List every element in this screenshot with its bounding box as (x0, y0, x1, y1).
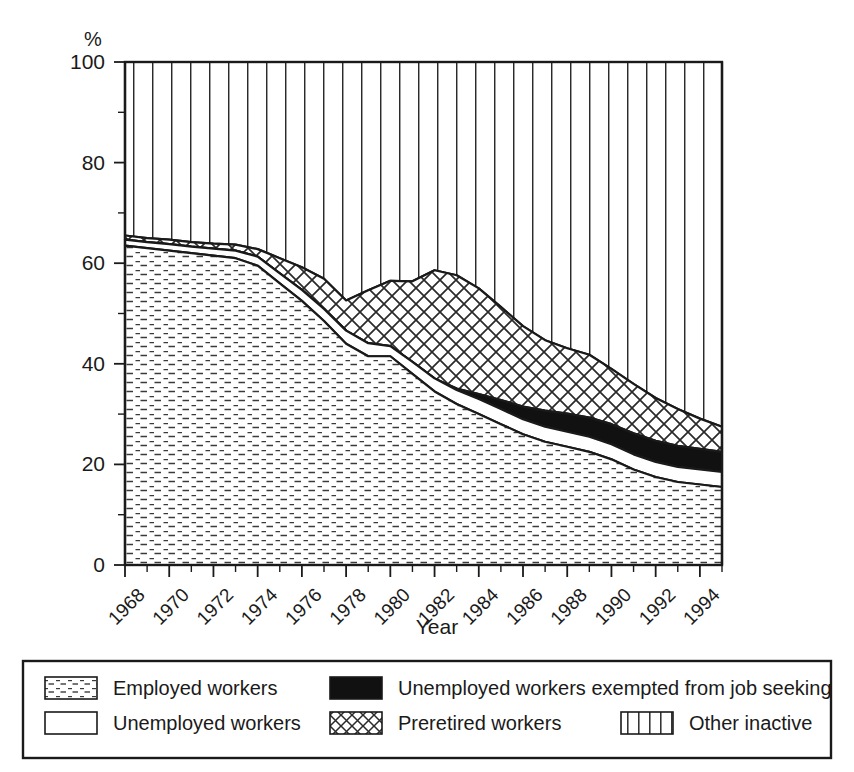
x-axis-title: Year (416, 615, 458, 638)
y-tick-label: 20 (82, 452, 105, 475)
x-tick-label: 1970 (148, 584, 193, 629)
y-tick-label: 40 (82, 352, 105, 375)
legend-swatch-preretired (330, 712, 382, 734)
legend-label-employed: Employed workers (113, 677, 278, 699)
x-tick-label: 1976 (281, 584, 326, 629)
legend-item-preretired: Preretired workers (330, 712, 561, 734)
legend-swatch-exempted (330, 677, 382, 699)
y-tick-label: 0 (93, 553, 105, 576)
legend-label-other-inactive: Other inactive (689, 712, 812, 734)
y-tick-label: 80 (82, 151, 105, 174)
legend-item-other-inactive: Other inactive (621, 712, 812, 734)
chart-bands (125, 62, 722, 565)
x-tick-label: 1986 (502, 584, 547, 629)
legend-frame (23, 661, 831, 758)
legend: Employed workers Unemployed workers Unem… (23, 661, 832, 758)
legend-label-unemployed: Unemployed workers (113, 712, 301, 734)
legend-item-unemployed: Unemployed workers (45, 712, 301, 734)
x-tick-label: 1972 (193, 584, 238, 629)
x-tick-label: 1968 (104, 584, 149, 629)
x-tick-label: 1980 (369, 584, 414, 629)
legend-swatch-other-inactive (621, 712, 673, 734)
legend-item-employed: Employed workers (45, 677, 278, 699)
y-axis-unit-label: % (84, 28, 102, 50)
y-axis: 020406080100 (70, 50, 125, 576)
x-axis: 1968197019721974197619781980198219841986… (104, 565, 724, 629)
x-tick-label: 1992 (635, 584, 680, 629)
legend-item-exempted: Unemployed workers exempted from job see… (330, 677, 832, 699)
legend-label-preretired: Preretired workers (398, 712, 561, 734)
legend-swatch-employed (45, 677, 97, 699)
x-tick-label: 1990 (591, 584, 636, 629)
y-tick-label: 100 (70, 50, 105, 73)
legend-label-exempted: Unemployed workers exempted from job see… (398, 677, 832, 699)
stacked-area-chart: % 020406080100 1968197019721974197619781… (0, 0, 854, 772)
x-tick-label: 1974 (237, 584, 282, 629)
x-tick-label: 1988 (546, 584, 591, 629)
x-tick-label: 1984 (458, 584, 503, 629)
legend-swatch-unemployed (45, 712, 97, 734)
y-tick-label: 60 (82, 251, 105, 274)
x-tick-label: 1994 (679, 584, 724, 629)
x-tick-label: 1978 (325, 584, 370, 629)
